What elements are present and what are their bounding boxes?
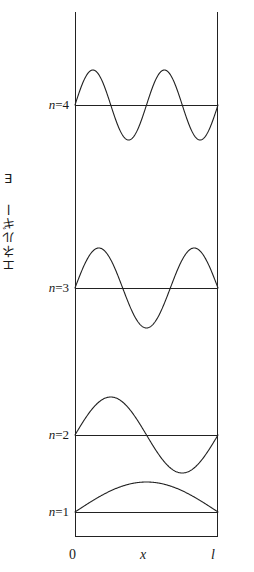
x-axis-tick-1: x — [140, 547, 146, 563]
x-axis-tick-2: l — [211, 547, 215, 563]
y-axis-title: エネルギー E — [2, 170, 28, 272]
wavefunction-curve-n1 — [75, 482, 218, 512]
energy-level-label-n4: n=4 — [27, 97, 69, 113]
wavefunction-curves — [75, 70, 218, 512]
x-axis-tick-0: 0 — [69, 547, 76, 563]
energy-level-lines — [75, 106, 218, 513]
energy-level-label-n3: n=3 — [27, 280, 69, 296]
energy-level-label-n2: n=2 — [27, 427, 69, 443]
energy-level-label-n1: n=1 — [27, 504, 69, 520]
potential-well-walls — [75, 12, 218, 537]
energy-level-figure: エネルギー E n=4n=3n=2n=1 0xl — [0, 0, 254, 572]
